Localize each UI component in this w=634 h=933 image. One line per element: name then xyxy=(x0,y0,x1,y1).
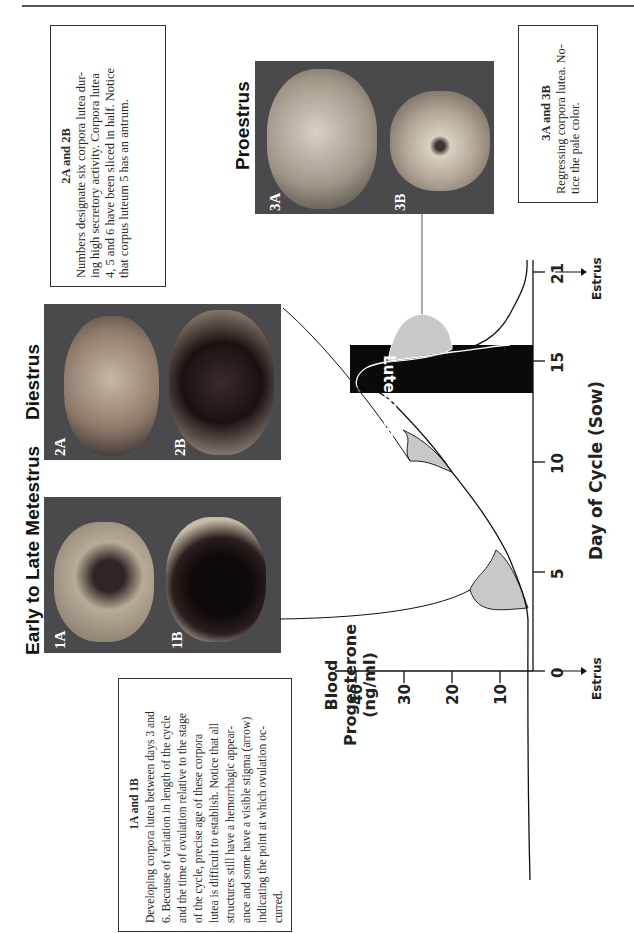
x-annotation-estrus-end: Estrus xyxy=(590,257,604,300)
y-axis-label: Blood Progesterone (ng/ml) xyxy=(322,610,379,760)
y-tick-20: 20 xyxy=(444,684,462,705)
x-axis-label: Day of Cycle (Sow) xyxy=(586,381,606,560)
x-tick-5: 5 xyxy=(549,569,567,579)
y-tick-30: 30 xyxy=(396,684,414,705)
luteolysis-label: Luteolysis xyxy=(380,355,398,441)
y-tick-10: 10 xyxy=(492,684,510,705)
progesterone-chart xyxy=(0,0,634,933)
shade-1a-1b xyxy=(470,550,528,610)
x-tick-21: 21 xyxy=(549,263,567,284)
x-tick-0: 0 xyxy=(549,668,567,678)
x-tick-10: 10 xyxy=(549,453,567,474)
x-annotation-estrus-start: Estrus xyxy=(590,657,604,700)
shade-2a-2b xyxy=(403,430,452,472)
x-tick-15: 15 xyxy=(549,352,567,373)
